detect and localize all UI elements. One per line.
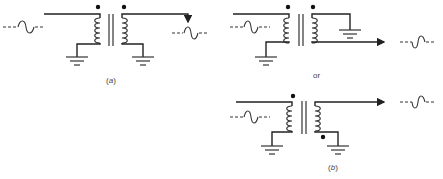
primary-ground-wire — [272, 131, 292, 146]
polarity-dot-primary — [286, 5, 290, 9]
secondary-output-wire — [315, 102, 384, 106]
polarity-dot-primary — [96, 5, 100, 9]
ground-icon — [132, 57, 154, 65]
primary-input-wire — [233, 14, 289, 18]
label-a: (a) — [106, 76, 116, 85]
primary-ground-wire — [77, 43, 100, 57]
primary-coil-icon — [95, 18, 100, 43]
primary-coil-icon — [284, 18, 289, 43]
input-signal-icon — [3, 21, 44, 33]
polarity-dot-primary — [291, 94, 295, 98]
ground-icon — [339, 30, 361, 38]
secondary-coil-icon — [312, 18, 317, 43]
ground-icon — [255, 57, 277, 65]
polarity-dot-secondary — [321, 135, 325, 139]
ground-icon — [327, 146, 349, 154]
primary-ground-wire — [266, 42, 289, 57]
primary-input-wire — [44, 14, 100, 18]
output-signal-icon — [400, 36, 436, 48]
primary-input-wire — [236, 102, 292, 106]
secondary-coil-icon — [122, 18, 127, 43]
ground-icon — [66, 57, 88, 65]
diagram-b-bottom: (b) — [230, 94, 436, 172]
label-b: (b) — [328, 163, 338, 172]
diagram-b-top — [230, 5, 436, 65]
secondary-output-wire — [312, 42, 384, 43]
input-signal-icon — [230, 111, 270, 123]
polarity-dot-secondary — [311, 5, 315, 9]
transformer-diagrams: (a) or — [0, 0, 443, 179]
secondary-output-wire — [122, 14, 188, 22]
secondary-coil-icon — [315, 106, 320, 131]
secondary-ground-wire — [122, 43, 143, 57]
diagram-a: (a) — [3, 5, 207, 85]
secondary-ground-wire — [315, 131, 338, 146]
or-separator: or — [313, 71, 320, 80]
output-signal-icon — [400, 96, 436, 108]
output-signal-icon — [172, 27, 207, 39]
input-signal-icon — [230, 21, 270, 33]
polarity-dot-secondary — [122, 5, 126, 9]
ground-icon — [261, 146, 283, 154]
secondary-ground-wire — [312, 14, 350, 30]
primary-coil-icon — [287, 106, 292, 131]
